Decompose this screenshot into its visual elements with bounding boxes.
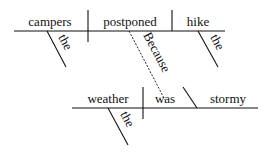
complement-divider <box>183 87 197 108</box>
main-verb: postponed <box>103 14 157 29</box>
object-modifier: the <box>207 31 228 52</box>
sub-verb: was <box>155 91 175 106</box>
subject-modifier: the <box>55 31 76 52</box>
connector-word: Because <box>140 29 174 74</box>
main-object: hike <box>187 14 210 29</box>
main-subject: campers <box>28 14 71 29</box>
sentence-diagram: campers postponed hike the the Because w… <box>0 0 272 158</box>
sub-subject: weather <box>87 91 129 106</box>
sub-complement: stormy <box>210 91 247 106</box>
sub-subject-modifier: the <box>117 108 138 129</box>
